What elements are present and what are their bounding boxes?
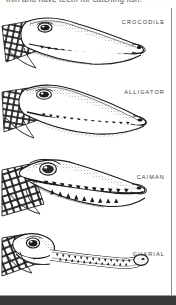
gharial-illustration [0, 220, 150, 296]
caption-text: thin and have teeth for catching fish. [6, 0, 142, 4]
label-alligator: ALLIGATOR [124, 89, 165, 95]
label-caiman: CAIMAN [137, 174, 165, 180]
caiman-illustration [0, 146, 150, 218]
label-crocodile: CROCODILE [122, 19, 165, 25]
caption-strip: thin and have teeth for catching fish. [0, 0, 176, 8]
alligator-illustration [0, 78, 150, 144]
scan-band [0, 296, 176, 305]
label-gharial: GHARIAL [133, 251, 165, 257]
specimen-panel-gharial: GHARIAL [0, 220, 171, 296]
specimen-panel-crocodile: CROCODILE [0, 10, 171, 76]
specimen-panel-caiman: CAIMAN [0, 146, 171, 218]
specimen-panel-alligator: ALLIGATOR [0, 78, 171, 144]
figure-page: thin and have teeth for catching fish. [0, 0, 176, 305]
figure-frame: CROCODILE [0, 8, 172, 296]
